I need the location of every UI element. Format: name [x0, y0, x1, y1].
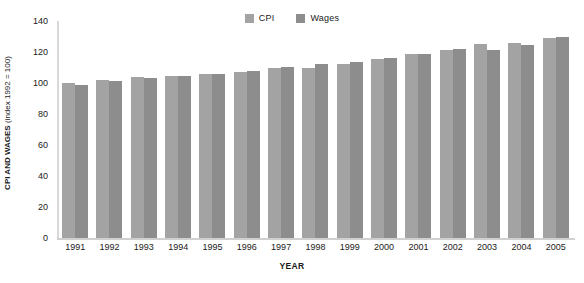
- x-axis-tick-label: 1993: [127, 243, 161, 252]
- x-axis-tick-label: 1994: [161, 243, 195, 252]
- bar-group: [367, 21, 401, 238]
- x-axis-tick-label: 1991: [58, 243, 92, 252]
- x-axis-line: [57, 238, 575, 240]
- y-axis-tick-label: 20: [8, 203, 48, 212]
- bar-cpi-1992[interactable]: [96, 80, 109, 238]
- y-axis-tick-label: 0: [8, 234, 48, 243]
- y-axis-tick-label: 60: [8, 141, 48, 150]
- bar-cpi-2003[interactable]: [474, 44, 487, 238]
- bar-cpi-2000[interactable]: [371, 59, 384, 238]
- bar-wages-1991[interactable]: [75, 85, 88, 238]
- bar-cpi-2001[interactable]: [405, 54, 418, 238]
- bar-group: [58, 21, 92, 238]
- bar-group: [161, 21, 195, 238]
- bar-cpi-1994[interactable]: [165, 76, 178, 238]
- y-axis-tick-label: 80: [8, 110, 48, 119]
- bar-group: [92, 21, 126, 238]
- bar-cpi-1998[interactable]: [302, 68, 315, 239]
- bar-wages-1995[interactable]: [212, 74, 225, 238]
- x-axis-tick-label: 1997: [264, 243, 298, 252]
- x-axis-tick-label: 2000: [367, 243, 401, 252]
- bar-group: [264, 21, 298, 238]
- x-axis-tick-label: 2005: [539, 243, 573, 252]
- bar-wages-1998[interactable]: [315, 64, 328, 238]
- bar-group: [470, 21, 504, 238]
- bar-wages-2002[interactable]: [453, 49, 466, 238]
- y-axis-tick-label: 140: [8, 17, 48, 26]
- bar-group: [230, 21, 264, 238]
- y-axis-title: CPI AND WAGES (index 1992 = 100): [4, 56, 12, 190]
- bar-group: [504, 21, 538, 238]
- y-axis-tick-label: 120: [8, 48, 48, 57]
- x-axis-title: YEAR: [0, 261, 584, 271]
- bar-group: [127, 21, 161, 238]
- bar-wages-1994[interactable]: [178, 76, 191, 238]
- x-axis-tick-label: 2001: [401, 243, 435, 252]
- bar-group: [401, 21, 435, 238]
- x-axis-tick-label: 1992: [92, 243, 126, 252]
- bar-wages-2000[interactable]: [384, 58, 397, 238]
- x-axis-tick-label: 1995: [195, 243, 229, 252]
- bar-wages-2001[interactable]: [418, 54, 431, 238]
- x-axis-tick-label: 2002: [436, 243, 470, 252]
- bar-chart: CPI Wages CPI AND WAGES (index 1992 = 10…: [0, 0, 584, 283]
- bar-wages-1997[interactable]: [281, 67, 294, 238]
- bar-wages-1993[interactable]: [144, 78, 157, 238]
- bars-container: [58, 21, 573, 238]
- bar-cpi-1997[interactable]: [268, 68, 281, 238]
- y-axis-tick-label: 40: [8, 172, 48, 181]
- bar-group: [195, 21, 229, 238]
- bar-wages-1992[interactable]: [109, 81, 122, 238]
- x-axis-ticks: 1991199219931994199519961997199819992000…: [58, 243, 573, 252]
- y-axis-tick-label: 100: [8, 79, 48, 88]
- bar-group: [539, 21, 573, 238]
- bar-group: [436, 21, 470, 238]
- bar-cpi-1991[interactable]: [62, 83, 75, 238]
- x-axis-tick-label: 2004: [504, 243, 538, 252]
- bar-wages-2004[interactable]: [521, 45, 534, 238]
- x-axis-tick-label: 2003: [470, 243, 504, 252]
- bar-wages-1999[interactable]: [350, 62, 363, 238]
- bar-cpi-2002[interactable]: [440, 50, 453, 238]
- bar-group: [298, 21, 332, 238]
- bar-cpi-1995[interactable]: [199, 74, 212, 238]
- bar-wages-2003[interactable]: [487, 50, 500, 238]
- bar-cpi-2005[interactable]: [543, 38, 556, 238]
- bar-cpi-1993[interactable]: [131, 77, 144, 238]
- bar-group: [333, 21, 367, 238]
- bar-wages-1996[interactable]: [247, 71, 260, 238]
- bar-cpi-2004[interactable]: [508, 43, 521, 238]
- bar-cpi-1996[interactable]: [234, 72, 247, 238]
- bar-wages-2005[interactable]: [556, 37, 569, 238]
- x-axis-tick-label: 1998: [298, 243, 332, 252]
- bar-cpi-1999[interactable]: [337, 64, 350, 238]
- x-axis-tick-label: 1996: [230, 243, 264, 252]
- x-axis-tick-label: 1999: [333, 243, 367, 252]
